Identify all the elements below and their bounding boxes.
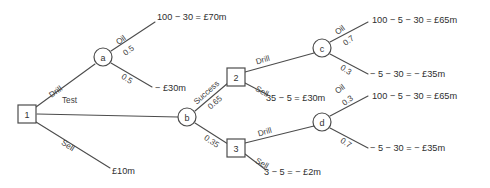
tree-node-b[interactable]: b bbox=[178, 108, 196, 126]
lbl-test: Test bbox=[62, 96, 78, 105]
node-label-b: b bbox=[184, 113, 189, 123]
payoff-n3-sell-payoff: 3 − 5 = − £2m bbox=[264, 167, 321, 177]
payoff-labels-layer: 100 − 30 = £70m− £30m£10m35 − 5 = £30m3 … bbox=[112, 12, 457, 177]
tree-node-1[interactable]: 1 bbox=[18, 105, 36, 123]
payoff-n2-sell-payoff: 35 − 5 = £30m bbox=[266, 93, 326, 103]
tree-node-2[interactable]: 2 bbox=[227, 68, 245, 86]
payoff-dry-payoff: − £30m bbox=[155, 83, 186, 93]
tree-edge-e-a-dry bbox=[111, 63, 152, 87]
payoff-c-oil-payoff: 100 − 5 − 30 = £65m bbox=[372, 15, 457, 25]
node-label-a: a bbox=[100, 53, 105, 63]
lbl-c-oil-prob: 0.7 bbox=[341, 33, 356, 47]
lbl-d-oil-prob: 0.3 bbox=[340, 93, 355, 107]
lbl-n2-drill: Drill bbox=[255, 54, 271, 67]
node-label-3: 3 bbox=[233, 144, 238, 154]
node-label-d: d bbox=[319, 118, 324, 128]
payoff-d-dry-payoff: − 5 − 30 = − £35m bbox=[370, 143, 445, 153]
payoff-c-dry-payoff: − 5 − 30 = − £35m bbox=[370, 69, 445, 79]
node-label-1: 1 bbox=[24, 110, 29, 120]
decision-tree-diagram: 1ab23cd DrillTestSellOil0.50.5Success0.6… bbox=[0, 0, 490, 188]
lbl-d-oil: Oil bbox=[333, 82, 347, 95]
lbl-b-failure-prob: 0.35 bbox=[202, 133, 221, 150]
decision-tree-canvas: 1ab23cd DrillTestSellOil0.50.5Success0.6… bbox=[0, 0, 490, 188]
tree-node-3[interactable]: 3 bbox=[227, 139, 245, 157]
node-label-2: 2 bbox=[233, 73, 238, 83]
lbl-a-oil: Oil bbox=[114, 33, 128, 46]
payoff-oil-payoff: 100 − 30 = £70m bbox=[157, 12, 227, 22]
tree-node-a[interactable]: a bbox=[94, 48, 112, 66]
tree-node-d[interactable]: d bbox=[313, 113, 331, 131]
lbl-sell: Sell bbox=[60, 138, 77, 153]
tree-node-c[interactable]: c bbox=[313, 39, 331, 57]
lbl-a-dry-prob: 0.5 bbox=[120, 72, 135, 86]
tree-edge-e-test bbox=[37, 114, 178, 117]
payoff-sell-payoff: £10m bbox=[112, 166, 135, 176]
tree-edge-e-n3-drill bbox=[245, 126, 314, 143]
lbl-a-oil-prob: 0.5 bbox=[121, 43, 136, 57]
lbl-d-dry-prob: 0.7 bbox=[339, 136, 354, 150]
node-label-c: c bbox=[320, 44, 325, 54]
payoff-d-oil-payoff: 100 − 5 − 30 = £65m bbox=[372, 91, 457, 101]
